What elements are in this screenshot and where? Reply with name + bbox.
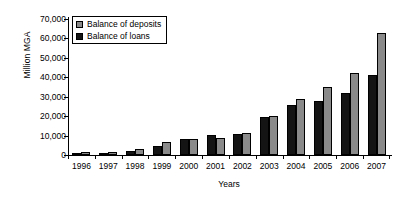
- bar: [180, 139, 189, 155]
- bar: [368, 75, 377, 155]
- bar: [162, 142, 171, 155]
- x-tick-label: 2002: [229, 161, 256, 171]
- legend-item-deposits: Balance of deposits: [76, 19, 161, 29]
- bar-group: [229, 19, 256, 155]
- x-axis-title: Years: [68, 179, 390, 189]
- bar: [242, 133, 251, 155]
- bar: [260, 117, 269, 155]
- loans-swatch-icon: [76, 33, 83, 40]
- y-tick-label: 10,000: [40, 131, 66, 141]
- y-tick-label: 30,000: [40, 92, 66, 102]
- x-tick: [95, 155, 122, 160]
- bar-group: [283, 19, 310, 155]
- x-tick: [122, 155, 149, 160]
- x-tick-label: 2003: [256, 161, 283, 171]
- x-tick-label: 1999: [148, 161, 175, 171]
- y-axis-title: Million MGA: [22, 0, 32, 110]
- x-tick: [148, 155, 175, 160]
- x-tick: [363, 155, 390, 160]
- x-tick: [256, 155, 283, 160]
- x-tick-label: 2007: [363, 161, 390, 171]
- x-tick: [229, 155, 256, 160]
- bar: [350, 73, 359, 155]
- x-tick-label: 2005: [309, 161, 336, 171]
- x-tick-label: 2000: [175, 161, 202, 171]
- x-tick-label: 2001: [202, 161, 229, 171]
- x-tick: [336, 155, 363, 160]
- x-tick: [309, 155, 336, 160]
- bar-group: [202, 19, 229, 155]
- bar-group: [256, 19, 283, 155]
- bar-chart: Million MGA 70,00060,00050,00040,00030,0…: [0, 0, 417, 208]
- legend-label-loans: Balance of loans: [87, 31, 150, 41]
- bar: [296, 99, 305, 155]
- bar: [189, 139, 198, 156]
- y-tick-label: 50,000: [40, 53, 66, 63]
- y-tick-label: 70,000: [40, 14, 66, 24]
- x-tick: [68, 155, 95, 160]
- x-tick-label: 1996: [68, 161, 95, 171]
- x-axis-labels: 1996199719981999200020012002200320042005…: [68, 161, 390, 171]
- bar-group: [336, 19, 363, 155]
- x-tick: [175, 155, 202, 160]
- y-tick-label: 60,000: [40, 33, 66, 43]
- x-tick: [283, 155, 310, 160]
- x-tick-label: 1998: [122, 161, 149, 171]
- x-axis-ticks: [68, 155, 390, 160]
- bar: [216, 138, 225, 155]
- bar: [341, 93, 350, 155]
- bar: [269, 116, 278, 155]
- deposits-swatch-icon: [76, 21, 83, 28]
- x-tick: [202, 155, 229, 160]
- bar: [377, 33, 386, 155]
- bar: [314, 101, 323, 155]
- bar: [207, 135, 216, 155]
- y-tick-label: 20,000: [40, 111, 66, 121]
- bar-group: [309, 19, 336, 155]
- legend-label-deposits: Balance of deposits: [87, 19, 161, 29]
- x-tick-label: 2004: [283, 161, 310, 171]
- bar: [233, 134, 242, 155]
- x-tick-label: 1997: [95, 161, 122, 171]
- bar-group: [175, 19, 202, 155]
- bar: [153, 146, 162, 155]
- legend-item-loans: Balance of loans: [76, 31, 161, 41]
- chart-legend: Balance of deposits Balance of loans: [72, 16, 167, 44]
- bar: [323, 87, 332, 155]
- x-tick-label: 2006: [336, 161, 363, 171]
- bar-group: [363, 19, 390, 155]
- y-tick-label: 40,000: [40, 72, 66, 82]
- bar: [287, 105, 296, 156]
